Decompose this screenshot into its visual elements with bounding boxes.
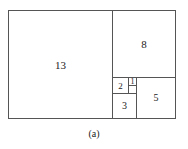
square-label: 5 xyxy=(137,93,175,103)
square-label: 8 xyxy=(113,39,175,50)
square-13: 13 xyxy=(8,10,113,119)
square-3: 3 xyxy=(112,93,137,119)
square-8: 8 xyxy=(112,10,176,78)
square-label: 13 xyxy=(9,59,112,70)
square-2: 2 xyxy=(112,77,129,94)
square-label: 3 xyxy=(113,101,136,111)
figure-caption: (a) xyxy=(0,128,188,139)
square-5: 5 xyxy=(136,77,176,119)
square-label: 2 xyxy=(113,81,128,90)
